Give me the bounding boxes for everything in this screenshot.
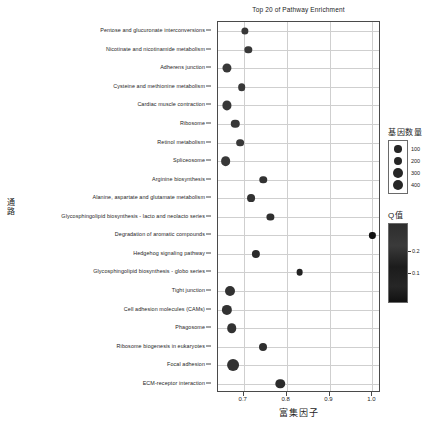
y-axis-tick-mark [206, 289, 211, 290]
y-axis-tick-label: Cardiac muscle contraction [137, 101, 205, 107]
gene-number-legend-item: 200 [389, 155, 407, 167]
y-axis-tick-label: Spliceosome [173, 157, 205, 163]
y-axis-tick-mark [206, 30, 211, 31]
data-point [227, 359, 239, 371]
gridline-horizontal [218, 217, 379, 218]
gene-number-legend-dot [394, 145, 401, 152]
gene-number-legend-dot [393, 180, 404, 191]
data-point [231, 120, 239, 128]
data-point [259, 176, 266, 183]
gridline-horizontal [218, 347, 379, 348]
data-point [222, 101, 231, 110]
y-axis-tick-label: Retinol metabolism [157, 139, 205, 145]
data-point [241, 28, 248, 35]
gridline-horizontal [218, 328, 379, 329]
gridline-horizontal [218, 254, 379, 255]
x-axis-tick-label: 0.9 [324, 396, 332, 402]
gridline-horizontal [218, 291, 379, 292]
y-axis-tick-label: Arginine biosynthesis [152, 176, 205, 182]
data-point [245, 46, 252, 53]
y-axis-tick-mark [206, 345, 211, 346]
y-axis-tick-label: Pentose and glucuronate interconversions [100, 27, 205, 33]
gridline-horizontal [218, 50, 379, 51]
gridline-horizontal [218, 384, 379, 385]
gridline-horizontal [218, 180, 379, 181]
gridline-vertical [244, 22, 245, 391]
gridline-horizontal [218, 105, 379, 106]
qvalue-legend: Q值 0.20.1 [388, 209, 440, 303]
y-axis-tick-mark [206, 271, 211, 272]
y-axis-tick-label: Glycosphingolipid biosynthesis - lacto a… [61, 213, 205, 219]
data-point [296, 269, 303, 276]
data-point [259, 343, 267, 351]
qvalue-colorbar-tick [408, 251, 411, 252]
x-axis-tick-label: 0.7 [239, 396, 247, 402]
data-point [236, 139, 244, 147]
data-point [275, 379, 284, 388]
y-axis-tick-label: Degradation of aromatic compounds [115, 231, 205, 237]
y-axis-tick-label: Focal adhesion [167, 361, 205, 367]
y-axis-tick-label: Ribosome [180, 120, 205, 126]
y-axis-tick-label: Glycosphingolipid biosynthesis - globo s… [93, 268, 205, 274]
data-point [267, 213, 274, 220]
y-axis-tick-label: Tight junction [172, 287, 205, 293]
qvalue-colorbar-label: 0.1 [412, 270, 420, 276]
y-axis-tick-mark [206, 123, 211, 124]
data-point [369, 232, 375, 238]
y-axis-tick-label: Cysteine and methionine metabolism [113, 83, 205, 89]
gene-number-legend-value: 100 [411, 146, 420, 152]
gridline-vertical [330, 22, 331, 391]
y-axis-tick-mark [206, 178, 211, 179]
gene-number-legend-dot [394, 157, 403, 166]
y-axis-tick-mark [206, 364, 211, 365]
data-point [222, 304, 232, 314]
y-axis-tick-label: Ribosome biogenesis in eukaryotes [117, 343, 205, 349]
qvalue-colorbar: 0.20.1 [388, 223, 408, 303]
gene-number-legend: 基因数量 100200300400 [388, 126, 440, 194]
chart-title: Top 20 of Pathway Enrichment [217, 6, 380, 13]
gridline-horizontal [218, 365, 379, 366]
y-axis-tick-mark [206, 141, 211, 142]
gene-number-legend-item: 300 [389, 167, 407, 179]
y-axis-tick-mark [206, 382, 211, 383]
y-axis-tick-mark [206, 252, 211, 253]
plot-area [217, 21, 380, 392]
y-axis-tick-label: Alanine, aspartate and glutamate metabol… [93, 194, 205, 200]
y-axis-tick-label: Phagosome [175, 324, 205, 330]
y-axis-tick-mark [206, 234, 211, 235]
data-point [225, 286, 235, 296]
y-axis-tick-mark [206, 85, 211, 86]
y-axis-tick-mark [206, 48, 211, 49]
qvalue-colorbar-label: 0.2 [412, 248, 420, 254]
x-axis-title: 富集因子 [217, 406, 380, 419]
gene-number-legend-value: 300 [411, 170, 420, 176]
qvalue-legend-title: Q值 [388, 209, 440, 220]
gridline-horizontal [218, 68, 379, 69]
data-point [227, 323, 237, 333]
gene-number-legend-value: 200 [411, 158, 420, 164]
gene-number-legend-items: 100200300400 [388, 140, 408, 194]
y-axis-tick-label: Cell adhesion molecules (CAMs) [124, 306, 205, 312]
y-axis-tick-label: ECM-receptor interaction [143, 380, 205, 386]
pathway-enrichment-figure: Top 20 of Pathway Enrichment 通路 Pentose … [0, 0, 440, 433]
y-axis-tick-mark [206, 67, 211, 68]
x-axis-tick-label: 1.0 [367, 396, 375, 402]
gene-number-legend-dot [393, 168, 403, 178]
data-point [248, 194, 256, 202]
data-point [221, 156, 231, 166]
gridline-horizontal [218, 310, 379, 311]
gridline-horizontal [218, 161, 379, 162]
qvalue-colorbar-tick [408, 273, 411, 274]
data-point [252, 250, 260, 258]
y-axis-tick-mark [206, 215, 211, 216]
gridline-horizontal [218, 198, 379, 199]
gene-number-legend-value: 400 [411, 182, 420, 188]
y-axis-tick-mark [206, 160, 211, 161]
y-axis-tick-mark [206, 327, 211, 328]
gene-number-legend-item: 100 [389, 143, 407, 155]
gene-number-legend-title: 基因数量 [388, 126, 440, 137]
gridline-vertical [287, 22, 288, 391]
gridline-horizontal [218, 235, 379, 236]
y-axis-tick-label: Nicotinate and nicotinamide metabolism [106, 46, 205, 52]
y-axis-tick-mark [206, 308, 211, 309]
